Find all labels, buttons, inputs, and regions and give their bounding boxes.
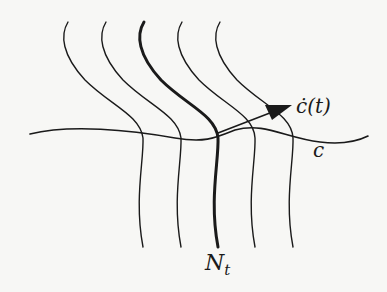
velocity-label: ċ(t) xyxy=(296,94,331,118)
leaf-curve-1 xyxy=(64,22,143,247)
leaf-label: Nt xyxy=(205,250,230,279)
foliation-diagram xyxy=(0,0,387,292)
leaf-label-subscript: t xyxy=(224,261,230,279)
leaf-curve-2 xyxy=(102,22,181,247)
arrow-head-icon xyxy=(265,105,292,120)
leaf-label-main: N xyxy=(205,250,224,275)
curve-label: c xyxy=(313,138,324,162)
